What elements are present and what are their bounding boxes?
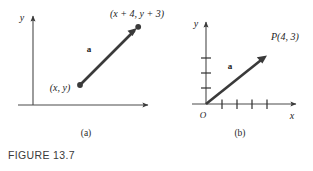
panel-a-vector-shaft xyxy=(80,31,135,86)
panel-a-tail-point-label: (x, y) xyxy=(50,82,71,94)
panel-a-y-axis-label: y xyxy=(19,12,25,23)
panel-b-vector-shaft xyxy=(206,59,263,105)
figure-canvas: y a (x, y) (x + 4, y + 3) (a) y x xyxy=(0,0,313,171)
panel-a: y a (x, y) (x + 4, y + 3) (a) xyxy=(18,8,165,139)
panel-b-x-axis-label: x xyxy=(289,110,295,121)
panel-b-caption: (b) xyxy=(234,128,245,139)
panel-b-point-label: P(4, 3) xyxy=(270,31,299,43)
panel-b-vector-label: a xyxy=(228,61,233,71)
figure-caption: FIGURE 13.7 xyxy=(8,149,75,161)
panel-b: y x a O P(4, 3) (b) xyxy=(192,18,299,139)
figure-13-7: y a (x, y) (x + 4, y + 3) (a) y x xyxy=(0,0,313,171)
panel-a-head-dot xyxy=(135,24,141,30)
panel-b-y-axis-label: y xyxy=(193,18,199,29)
panel-b-origin-label: O xyxy=(200,110,207,120)
panel-a-caption: (a) xyxy=(81,128,92,139)
panel-a-vector-label: a xyxy=(87,44,92,54)
panel-a-head-point-label: (x + 4, y + 3) xyxy=(110,8,165,20)
panel-a-tail-dot xyxy=(77,82,83,88)
